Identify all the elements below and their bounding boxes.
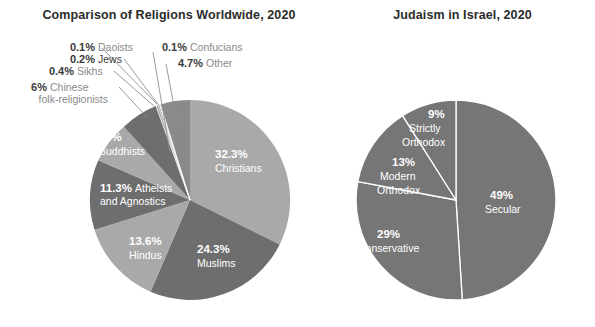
callout-daoists-pct: 0.1%	[70, 41, 95, 53]
callout-jews-pct: 0.2%	[70, 53, 95, 65]
figure-root: Comparison of Religions Worldwide, 2020	[0, 0, 595, 327]
leader-line-sikhs	[114, 71, 155, 107]
pie-slices	[356, 100, 556, 300]
slice-label-hindus-name: Hindus	[129, 249, 162, 261]
slice-label-atheists-pct: 11.3%	[100, 182, 132, 194]
callout-confucians-name: Confucians	[190, 41, 243, 53]
slice-conservative[interactable]	[356, 182, 462, 300]
slice-label-modern-name2: Orthodox	[377, 184, 421, 196]
slice-label-conservative-pct: 29%	[377, 228, 400, 240]
callout-chinese-pct: 6%	[31, 81, 47, 93]
slice-label-buddhists-pct: 7%	[105, 131, 122, 143]
slice-label-strictly-name2: Orthodox	[402, 136, 446, 148]
slice-label-atheists-agnostics: 11.3%Atheists and Agnostics	[100, 182, 172, 207]
slice-label-buddhists-name: Buddhists	[99, 145, 145, 157]
world-religions-pie-chart: 0.1% Daoists 0.2% Jews 0.4% Sikhs 6% Chi…	[0, 0, 330, 327]
callout-label-other: 4.7% Other	[178, 57, 233, 69]
callout-daoists-name: Daoists	[98, 41, 133, 53]
callout-label-jews: 0.2% Jews	[70, 53, 122, 65]
judaism-israel-pie-chart: 9% Strictly Orthodox 13% Modern Orthodox…	[330, 0, 595, 327]
slice-label-modern-pct: 13%	[392, 156, 415, 168]
callout-sikhs-name: Sikhs	[77, 65, 103, 77]
slice-label-muslims-name: Muslims	[197, 257, 236, 269]
callout-label-daoists: 0.1% Daoists	[70, 41, 133, 53]
right-chart-panel: Judaism in Israel, 2020 9% Strictly Orth…	[330, 0, 595, 327]
slice-label-atheists-line2: and Agnostics	[100, 195, 165, 207]
slice-label-secular-name: Secular	[485, 203, 521, 215]
slice-label-hindus-pct: 13.6%	[129, 235, 162, 247]
slice-label-muslims-pct: 24.3%	[197, 243, 230, 255]
callout-other-pct: 4.7%	[178, 57, 203, 69]
slice-label-christians-name: Christians	[215, 162, 262, 174]
callout-label-confucians: 0.1% Confucians	[162, 41, 243, 53]
slice-label-conservative-name: Conservative	[358, 242, 419, 254]
callout-label-sikhs: 0.4% Sikhs	[49, 65, 103, 77]
slice-label-christians-pct: 32.3%	[215, 148, 248, 160]
callout-sikhs-pct: 0.4%	[49, 65, 74, 77]
slice-label-strictly-pct: 9%	[428, 108, 445, 120]
slice-label-modern-name1: Modern	[380, 170, 416, 182]
slice-label-atheists-line1: 11.3%Atheists	[100, 182, 172, 194]
left-chart-panel: Comparison of Religions Worldwide, 2020	[0, 0, 330, 327]
slice-label-secular-pct: 49%	[490, 189, 513, 201]
callout-chinese-name: Chinese	[50, 81, 89, 93]
leader-line-chinese	[119, 87, 147, 117]
callout-confucians-pct: 0.1%	[162, 41, 187, 53]
slice-label-atheists-name: Atheists	[135, 182, 172, 194]
slice-label-strictly-name1: Strictly	[409, 122, 441, 134]
callout-chinese-name2: folk-religionists	[39, 93, 108, 105]
callout-label-chinese-folk-religionists: 6% Chinese folk-religionists	[31, 81, 108, 105]
callout-jews-name: Jews	[98, 53, 122, 65]
callout-other-name: Other	[206, 57, 233, 69]
